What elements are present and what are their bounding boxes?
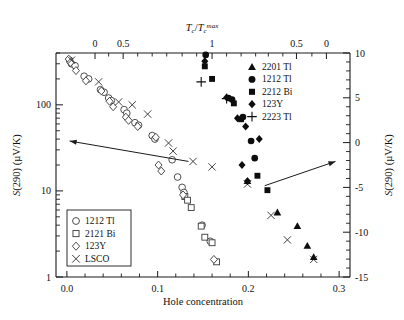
- y2-tick-label: 0: [355, 137, 360, 148]
- data-point: [255, 173, 261, 179]
- y-tick-label: 1: [46, 272, 51, 283]
- legend-label: 123Y: [262, 99, 283, 109]
- data-point: [202, 52, 209, 59]
- x-tick-label: 0.2: [242, 283, 255, 294]
- legend-label: 2121 Bi: [85, 229, 116, 239]
- data-point: [188, 205, 194, 211]
- legend-label: 1212 Tl: [85, 216, 115, 226]
- y2-tick-label: -5: [355, 182, 363, 193]
- data-point: [264, 187, 270, 193]
- legend-label: 2201 Tl: [262, 62, 292, 72]
- y-tick-label: 10: [41, 185, 51, 196]
- y2-tick-label: 10: [355, 48, 365, 59]
- y-tick-label: 100: [36, 99, 51, 110]
- x-tick-label: 0.1: [151, 283, 164, 294]
- data-point: [248, 138, 255, 145]
- y2-tick-label: -10: [355, 227, 368, 238]
- top-tick-label: 0: [93, 38, 98, 49]
- top-tick-label: 0.5: [290, 38, 303, 49]
- legend-label: 123Y: [85, 241, 106, 251]
- figure-container: 2201 Tl1212 Tl2212 Bi123Y2223 Tl1212 Tl2…: [0, 0, 404, 320]
- data-point: [198, 223, 204, 229]
- square-open-icon: [73, 231, 79, 237]
- circle-open-icon: [73, 218, 80, 225]
- legend-label: 2212 Bi: [262, 87, 293, 97]
- y2-tick-label: -15: [355, 272, 368, 283]
- data-point: [174, 174, 181, 181]
- top-tick-label: 0.5: [117, 38, 130, 49]
- legend-label: 1212 Tl: [262, 74, 292, 84]
- y2-tick-label: 5: [355, 92, 360, 103]
- data-point: [209, 76, 215, 82]
- figure-background: [0, 0, 404, 320]
- y2-axis-title: S(290) (µV/K): [383, 134, 395, 196]
- x-axis-title: Hole concentration: [163, 296, 244, 307]
- x-tick-label: 0.0: [61, 283, 74, 294]
- circle-filled-icon: [249, 76, 256, 83]
- data-point: [202, 234, 208, 240]
- y-axis-title: S(290) (µV/K): [11, 134, 23, 196]
- data-point: [231, 100, 237, 106]
- data-point: [169, 156, 176, 163]
- data-point: [185, 197, 191, 203]
- legend-label: 2223 Tl: [262, 112, 292, 122]
- square-filled-icon: [249, 89, 255, 95]
- data-point: [209, 240, 215, 246]
- top-tick-label: 0: [324, 38, 329, 49]
- legend-open: 1212 Tl2121 Bi123YLSCO: [67, 210, 131, 266]
- top-tick-label: 1: [210, 38, 215, 49]
- thermopower-scatter-chart: 2201 Tl1212 Tl2212 Bi123Y2223 Tl1212 Tl2…: [0, 0, 404, 320]
- data-point: [251, 155, 258, 162]
- x-tick-label: 0.3: [333, 283, 346, 294]
- legend-label: LSCO: [85, 254, 109, 264]
